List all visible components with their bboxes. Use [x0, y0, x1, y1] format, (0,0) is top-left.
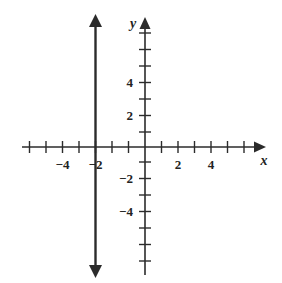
y-tick-label-4: 4: [127, 75, 134, 90]
y-axis-name-label: y: [128, 16, 137, 31]
y-tick-label-neg2: −2: [119, 171, 133, 186]
x-axis-name-label: x: [260, 153, 268, 168]
x-tick-label-4: 4: [208, 157, 215, 172]
x-tick-label-2: 2: [175, 157, 182, 172]
x-tick-label-neg2: −2: [89, 157, 103, 172]
coordinate-plane-canvas: −4 −2 2 4 4 2 −2 −4 x y: [0, 0, 282, 283]
coordinate-plane-figure: −4 −2 2 4 4 2 −2 −4 x y: [0, 0, 282, 283]
x-tick-label-neg4: −4: [56, 157, 70, 172]
y-tick-label-neg4: −4: [119, 204, 133, 219]
figure-background: [0, 0, 282, 283]
y-tick-label-2: 2: [127, 108, 134, 123]
